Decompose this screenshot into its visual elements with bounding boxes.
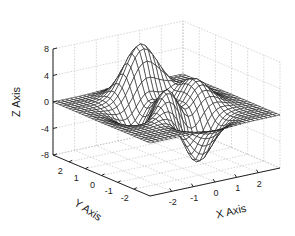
z-tick-label: -8 xyxy=(41,150,49,160)
z-tick-label: 8 xyxy=(44,44,49,54)
y-tick-label: 0 xyxy=(90,180,95,190)
y-tick-label: 2 xyxy=(58,166,63,176)
z-tick-label: -4 xyxy=(41,124,49,134)
y-tick-label: 1 xyxy=(74,173,79,183)
surface-mesh xyxy=(53,44,280,162)
x-tick-label: -2 xyxy=(169,197,177,207)
x-tick-label: -1 xyxy=(190,193,198,203)
x-tick-label: 2 xyxy=(257,179,262,189)
y-axis-label: Y Axis xyxy=(72,196,104,223)
x-tick-label: 0 xyxy=(213,188,218,198)
x-axis-label: X Axis xyxy=(215,202,248,221)
z-tick-label: 4 xyxy=(44,71,49,81)
z-axis-label: Z Axis xyxy=(10,87,22,117)
y-tick-label: -1 xyxy=(105,186,113,196)
surface-plot: -8-4048-2-1012-2-1012 Z Axis Y Axis X Ax… xyxy=(0,0,295,236)
y-tick-label: -2 xyxy=(121,193,129,203)
x-tick-label: 1 xyxy=(235,183,240,193)
z-tick-label: 0 xyxy=(44,97,49,107)
